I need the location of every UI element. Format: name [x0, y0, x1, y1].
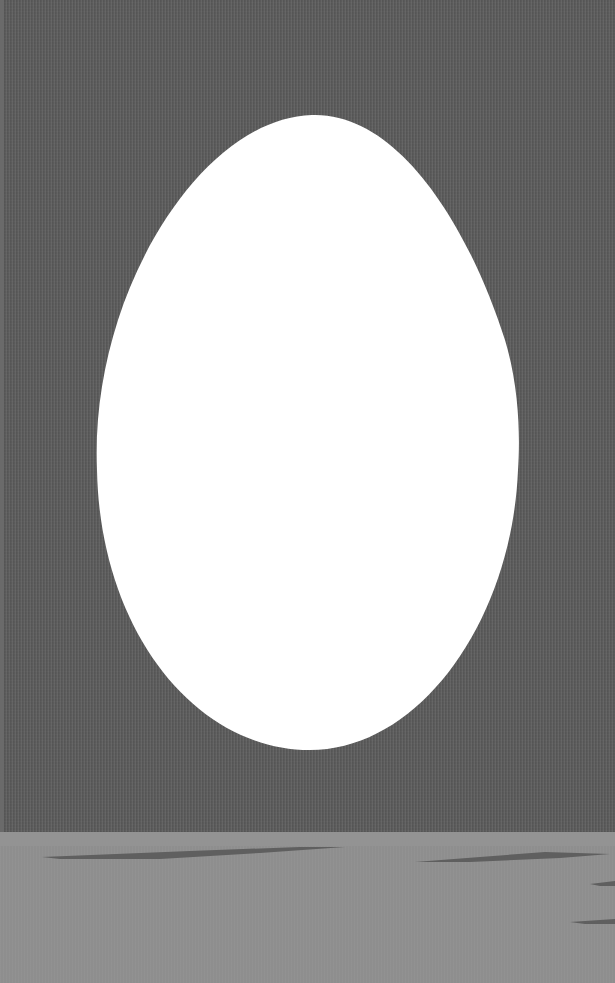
egg-icon [97, 115, 519, 750]
illustration-scene [0, 0, 615, 983]
egg-shape [0, 0, 615, 983]
